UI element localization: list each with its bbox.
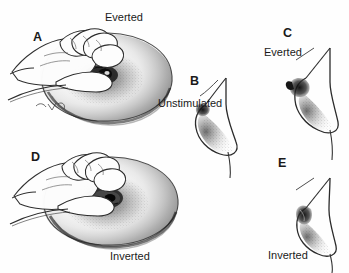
label-inverted-e: Inverted <box>268 250 308 261</box>
panel-letter-a: A <box>33 31 42 44</box>
panel-a-hand <box>8 29 124 102</box>
panel-letter-e: E <box>278 157 287 170</box>
panel-letter-c: C <box>283 27 292 40</box>
panel-a-nipple <box>84 65 118 85</box>
panel-c-nipple <box>286 78 310 97</box>
panel-d-artwork <box>10 153 178 249</box>
label-everted-c: Everted <box>264 47 302 58</box>
panel-c-artwork <box>286 48 338 160</box>
panel-e-nipple <box>296 205 312 224</box>
medical-illustration-figure: Everted Inverted A B Unstimulated C Ever… <box>0 0 349 273</box>
label-unstimulated: Unstimulated <box>158 98 222 109</box>
illustration-artwork <box>0 0 349 273</box>
panel-letter-d: D <box>31 151 40 164</box>
panel-letter-b: B <box>190 75 199 88</box>
label-inverted-bottom: Inverted <box>110 251 150 262</box>
artist-signature <box>36 103 65 110</box>
panel-d-hand <box>10 153 126 226</box>
label-everted-top: Everted <box>105 12 143 23</box>
panel-b-artwork <box>195 78 237 178</box>
panel-d-nipple <box>85 187 123 209</box>
